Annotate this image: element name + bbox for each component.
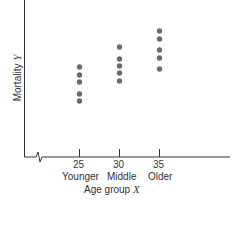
y-axis-label-var: Y [11,55,23,61]
x-tick-label-35: 35 [153,159,164,170]
series-middle [117,44,122,83]
x-tick-label-25: 25 [73,159,84,170]
y-axis-label: Mortality Y [11,48,23,108]
x-axis-label-text: Age group [84,184,130,195]
x-axis-label: Age group X [84,183,140,195]
x-category-younger: Younger [62,171,99,182]
x-category-older: Older [148,171,172,182]
x-tick-label-30: 30 [113,159,124,170]
series-younger [77,64,82,103]
x-category-middle: Middle [107,171,136,182]
x-axis [25,152,231,162]
x-axis-label-var: X [133,183,140,195]
y-axis-label-text: Mortality [12,64,23,102]
series-older [157,28,162,71]
